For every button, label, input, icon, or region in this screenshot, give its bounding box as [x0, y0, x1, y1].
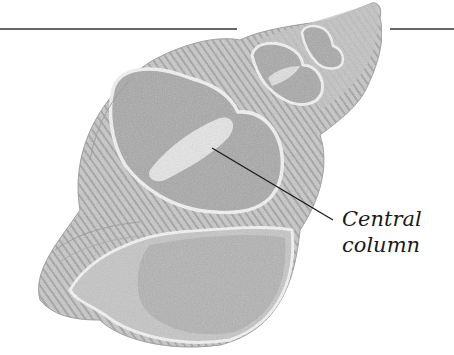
label-line-2: column: [342, 232, 422, 258]
shell-body: [39, 3, 382, 347]
label-line-1: Central: [342, 206, 422, 232]
central-column-label: Central column: [342, 206, 422, 258]
shell-illustration: [0, 0, 454, 355]
